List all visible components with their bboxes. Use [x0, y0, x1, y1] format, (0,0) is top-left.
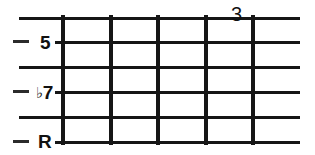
- fret-line: [156, 15, 160, 145]
- scale-degree-label: ♭7: [36, 83, 53, 102]
- tick-dash-icon: [13, 140, 29, 143]
- scale-degree-text: 5: [40, 32, 50, 53]
- fret-line: [109, 15, 113, 145]
- flat-sign-icon: ♭: [36, 84, 43, 101]
- string-line: [55, 91, 300, 94]
- scale-degree-label: R: [38, 132, 51, 151]
- scale-degree-text: 7: [43, 82, 53, 103]
- string-line: [55, 141, 300, 144]
- fret-position-number: 3: [231, 4, 242, 24]
- tick-dash-icon: [13, 40, 29, 43]
- fret-line: [251, 15, 255, 145]
- string-line: [55, 41, 300, 44]
- fret-line: [61, 15, 65, 145]
- scale-degree-label: 5: [40, 33, 50, 52]
- fret-line: [204, 15, 208, 145]
- scale-degree-text: R: [38, 131, 51, 152]
- fretboard-diagram: 5♭7R3: [0, 0, 315, 155]
- tick-dash-icon: [13, 90, 29, 93]
